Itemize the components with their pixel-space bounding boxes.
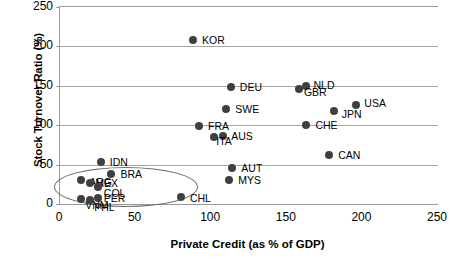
data-point-label-usa: USA	[364, 98, 386, 109]
data-point-label-can: CAN	[338, 150, 360, 161]
x-tick-label: 250	[417, 210, 452, 224]
data-point-aut	[228, 164, 236, 172]
x-tick-label: 50	[115, 210, 155, 224]
data-point-mys	[225, 176, 233, 184]
y-gridline	[60, 46, 438, 47]
data-point-label-aus: AUS	[231, 131, 253, 142]
y-tick-label: 200	[9, 39, 53, 51]
data-point-idn	[97, 158, 105, 166]
data-point-label-mys: MYS	[238, 175, 261, 186]
x-axis-title: Private Credit (as % of GDP)	[55, 238, 440, 250]
data-point-label-chl: CHL	[190, 193, 211, 204]
y-tick-label: 150	[9, 79, 53, 91]
x-tick-label: 100	[190, 210, 230, 224]
data-point-label-kor: KOR	[202, 35, 225, 46]
x-tick-label: 0	[39, 210, 79, 224]
x-tick-label: 150	[266, 210, 306, 224]
data-point-label-gbr: GBR	[304, 87, 327, 98]
y-tick-mark	[56, 125, 60, 126]
y-tick-label: 100	[9, 118, 53, 130]
data-point-kor	[189, 36, 197, 44]
data-point-che	[302, 121, 310, 129]
y-tick-label: 0	[9, 197, 53, 209]
data-point-deu	[227, 83, 235, 91]
data-point-gbr	[295, 85, 303, 93]
data-point-label-che: CHE	[315, 120, 337, 131]
data-point-label-aut: AUT	[241, 163, 262, 174]
data-point-chl	[177, 193, 185, 201]
data-point-label-deu: DEU	[240, 82, 262, 93]
data-point-jpn	[330, 107, 338, 115]
data-point-label-fra: FRA	[208, 121, 229, 132]
y-tick-label: 50	[9, 158, 53, 170]
data-point-fra	[195, 122, 203, 130]
data-point-label-swe: SWE	[235, 104, 259, 115]
data-point-label-idn: IDN	[110, 157, 128, 168]
x-tick-label: 200	[341, 210, 381, 224]
y-gridline	[60, 125, 438, 126]
data-point-can	[325, 151, 333, 159]
data-point-swe	[222, 105, 230, 113]
y-tick-mark	[56, 7, 60, 8]
y-tick-mark	[56, 165, 60, 166]
data-point-label-bra: BRA	[120, 169, 142, 180]
data-point-label-ita: ITA	[216, 136, 232, 147]
y-tick-mark	[56, 204, 60, 205]
y-tick-mark	[56, 86, 60, 87]
plot-area: KORDEUNLDGBRSWEUSAJPNCHEFRAAUSITACANAUTM…	[59, 6, 438, 205]
y-tick-mark	[56, 46, 60, 47]
data-point-label-jpn: JPN	[342, 109, 362, 120]
y-tick-label: 250	[9, 0, 53, 12]
data-point-label-phl: PHL	[94, 202, 114, 213]
